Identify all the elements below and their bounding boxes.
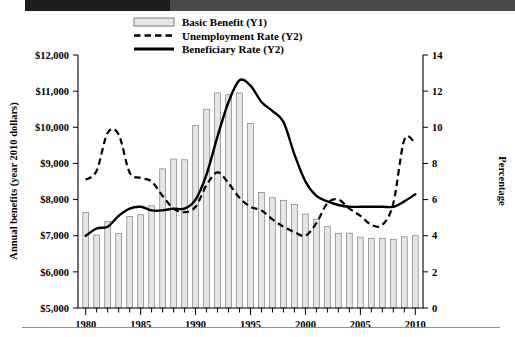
legend-swatch-basic-benefit xyxy=(134,18,174,26)
bar-2004 xyxy=(347,233,353,308)
bar-2007 xyxy=(379,238,385,308)
y1-axis-title: Annual benefits (year 2010 dollars) xyxy=(8,102,20,260)
bar-1994 xyxy=(237,93,243,308)
bar-2009 xyxy=(401,237,407,308)
bar-1987 xyxy=(160,169,166,308)
bar-1993 xyxy=(226,95,232,308)
bar-1992 xyxy=(215,93,221,308)
x-tick-label-2010: 2010 xyxy=(405,319,426,327)
chart-legend: Basic Benefit (Y1) Unemployment Rate (Y2… xyxy=(134,16,303,56)
y1-tick-label-5000: $5,000 xyxy=(40,303,69,314)
y2-tick-label-14: 14 xyxy=(432,50,443,61)
bar-1998 xyxy=(281,200,287,308)
legend-label-beneficiary-rate: Beneficiary Rate (Y2) xyxy=(182,43,284,56)
bar-2006 xyxy=(369,239,375,308)
y1-tick-label-12000: $12,000 xyxy=(35,50,69,61)
bar-1986 xyxy=(149,206,155,308)
chart-figure: $5,000$6,000$7,000$8,000$9,000$10,000$11… xyxy=(0,11,515,327)
y2-tick-label-12: 12 xyxy=(432,86,443,97)
x-tick-label-1985: 1985 xyxy=(130,319,151,327)
bar-2000 xyxy=(303,214,309,308)
y1-tick-label-10000: $10,000 xyxy=(35,122,69,133)
y2-tick-label-6: 6 xyxy=(432,194,437,205)
bar-2001 xyxy=(314,219,320,308)
y1-tick-label-11000: $11,000 xyxy=(35,86,69,97)
bar-1981 xyxy=(94,235,100,308)
bar-2010 xyxy=(412,236,418,308)
bar-2008 xyxy=(390,239,396,308)
top-banner-strip xyxy=(0,0,515,11)
x-tick-label-1990: 1990 xyxy=(185,319,206,327)
bar-1989 xyxy=(182,160,188,308)
y1-tick-label-9000: $9,000 xyxy=(40,158,69,169)
bar-1984 xyxy=(127,217,133,308)
y2-tick-label-2: 2 xyxy=(432,267,437,278)
legend-label-basic-benefit: Basic Benefit (Y1) xyxy=(182,16,267,29)
y1-tick-label-7000: $7,000 xyxy=(40,230,69,241)
dual-axis-chart: $5,000$6,000$7,000$8,000$9,000$10,000$11… xyxy=(0,11,515,327)
bottom-divider-rule xyxy=(22,327,500,328)
bar-2003 xyxy=(336,234,342,308)
y2-tick-label-4: 4 xyxy=(432,230,438,241)
x-tick-label-2000: 2000 xyxy=(295,319,316,327)
x-tick-label-1980: 1980 xyxy=(75,319,96,327)
bar-1980 xyxy=(83,212,89,308)
banner-light-segment xyxy=(170,0,515,11)
bar-1988 xyxy=(171,159,177,308)
bar-1997 xyxy=(270,198,276,308)
bar-1996 xyxy=(259,192,265,308)
y2-axis-title: Percentage xyxy=(497,156,508,206)
bar-1985 xyxy=(138,215,144,308)
legend-label-unemployment-rate: Unemployment Rate (Y2) xyxy=(182,30,303,43)
bar-1990 xyxy=(193,125,199,308)
bar-1995 xyxy=(248,124,254,308)
bar-1999 xyxy=(292,204,298,308)
bar-2005 xyxy=(358,237,364,308)
bar-2002 xyxy=(325,227,331,308)
y1-tick-label-6000: $6,000 xyxy=(40,267,69,278)
bar-1982 xyxy=(105,221,111,308)
bar-1991 xyxy=(204,109,210,308)
y2-tick-label-8: 8 xyxy=(432,158,437,169)
y2-tick-label-10: 10 xyxy=(432,122,443,133)
x-tick-label-1995: 1995 xyxy=(240,319,261,327)
bar-1983 xyxy=(116,234,122,308)
y2-tick-label-0: 0 xyxy=(432,303,437,314)
x-tick-label-2005: 2005 xyxy=(350,319,371,327)
banner-dark-segment xyxy=(25,0,170,11)
y1-tick-label-8000: $8,000 xyxy=(40,194,69,205)
